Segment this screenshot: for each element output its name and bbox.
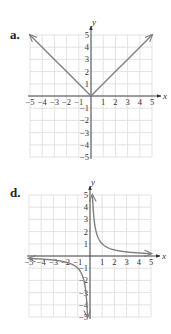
y-tick-label: 3 xyxy=(85,54,89,64)
x-tick-label: 2 xyxy=(113,97,117,107)
y-tick-label: 2 xyxy=(84,227,88,237)
y-tick-label: −5 xyxy=(79,312,88,322)
x-tick-label: 4 xyxy=(138,97,143,107)
x-tick-label: 3 xyxy=(124,257,128,267)
x-tick-label: 4 xyxy=(137,257,142,267)
y-axis-label: y xyxy=(90,177,95,187)
curve-branch-positive xyxy=(92,195,151,254)
y-tick-label: 1 xyxy=(85,79,89,89)
y-tick-label: 5 xyxy=(84,190,88,200)
x-tick-label: −3 xyxy=(49,257,58,267)
y-tick-label: 3 xyxy=(84,214,88,224)
x-tick-label: 5 xyxy=(150,97,154,107)
x-axis-label: x xyxy=(161,251,166,261)
y-axis-label: y xyxy=(91,17,96,27)
x-tick-label: 5 xyxy=(149,257,153,267)
graph-d-reciprocal: xy−5−4−3−2−112345−5−4−3−2−112345 xyxy=(0,160,171,334)
x-tick-label: −4 xyxy=(38,97,48,107)
x-axis-label: x xyxy=(162,91,167,101)
x-tick-label: 1 xyxy=(100,257,104,267)
x-tick-label: 1 xyxy=(101,97,105,107)
x-tick-label: −2 xyxy=(62,97,71,107)
x-tick-label: 2 xyxy=(112,257,116,267)
graph-a-absolute-value: xy−5−4−3−2−112345−5−4−3−2−112345 xyxy=(0,0,171,165)
y-tick-label: 1 xyxy=(84,239,88,249)
y-tick-label: 5 xyxy=(85,30,89,40)
y-tick-label: −3 xyxy=(80,128,89,138)
y-tick-label: 2 xyxy=(85,67,89,77)
y-tick-label: −1 xyxy=(80,103,89,113)
x-tick-label: 3 xyxy=(125,97,129,107)
y-tick-label: −2 xyxy=(80,115,89,125)
y-tick-label: −4 xyxy=(80,140,90,150)
x-tick-label: −5 xyxy=(25,97,34,107)
x-tick-label: −3 xyxy=(50,97,59,107)
